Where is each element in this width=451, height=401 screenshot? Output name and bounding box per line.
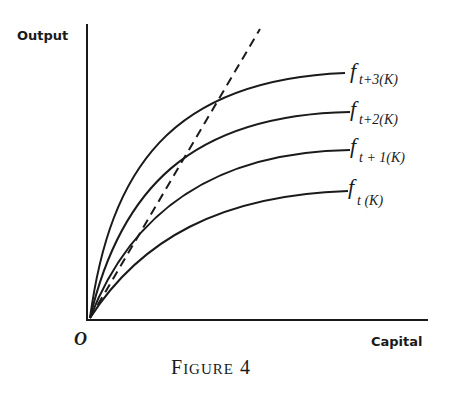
label-f-t3-fn: f <box>350 58 359 83</box>
figure-canvas: Output Capital O f t+3(K) f t+2(K) f t +… <box>0 0 451 401</box>
label-f-t1-sub: t + 1(K) <box>359 150 405 166</box>
label-f-t2-fn: f <box>350 96 359 121</box>
label-f-t-fn: f <box>348 174 357 199</box>
label-f-t-sub: t (K) <box>357 193 383 209</box>
dashed-ray <box>90 29 260 318</box>
curve-f-t3 <box>90 73 345 318</box>
curve-f-t2 <box>90 112 350 318</box>
y-axis-label: Output <box>17 28 68 43</box>
origin-label: O <box>74 329 87 349</box>
label-f-t3-sub: t+3(K) <box>359 72 398 88</box>
label-f-t1-fn: f <box>350 133 359 158</box>
curve-f-t <box>90 191 348 318</box>
label-f-t2-sub: t+2(K) <box>359 112 398 128</box>
x-axis-label: Capital <box>371 334 423 349</box>
figure-caption: FIGURE4 <box>171 356 251 378</box>
curve-f-t1 <box>90 150 350 318</box>
